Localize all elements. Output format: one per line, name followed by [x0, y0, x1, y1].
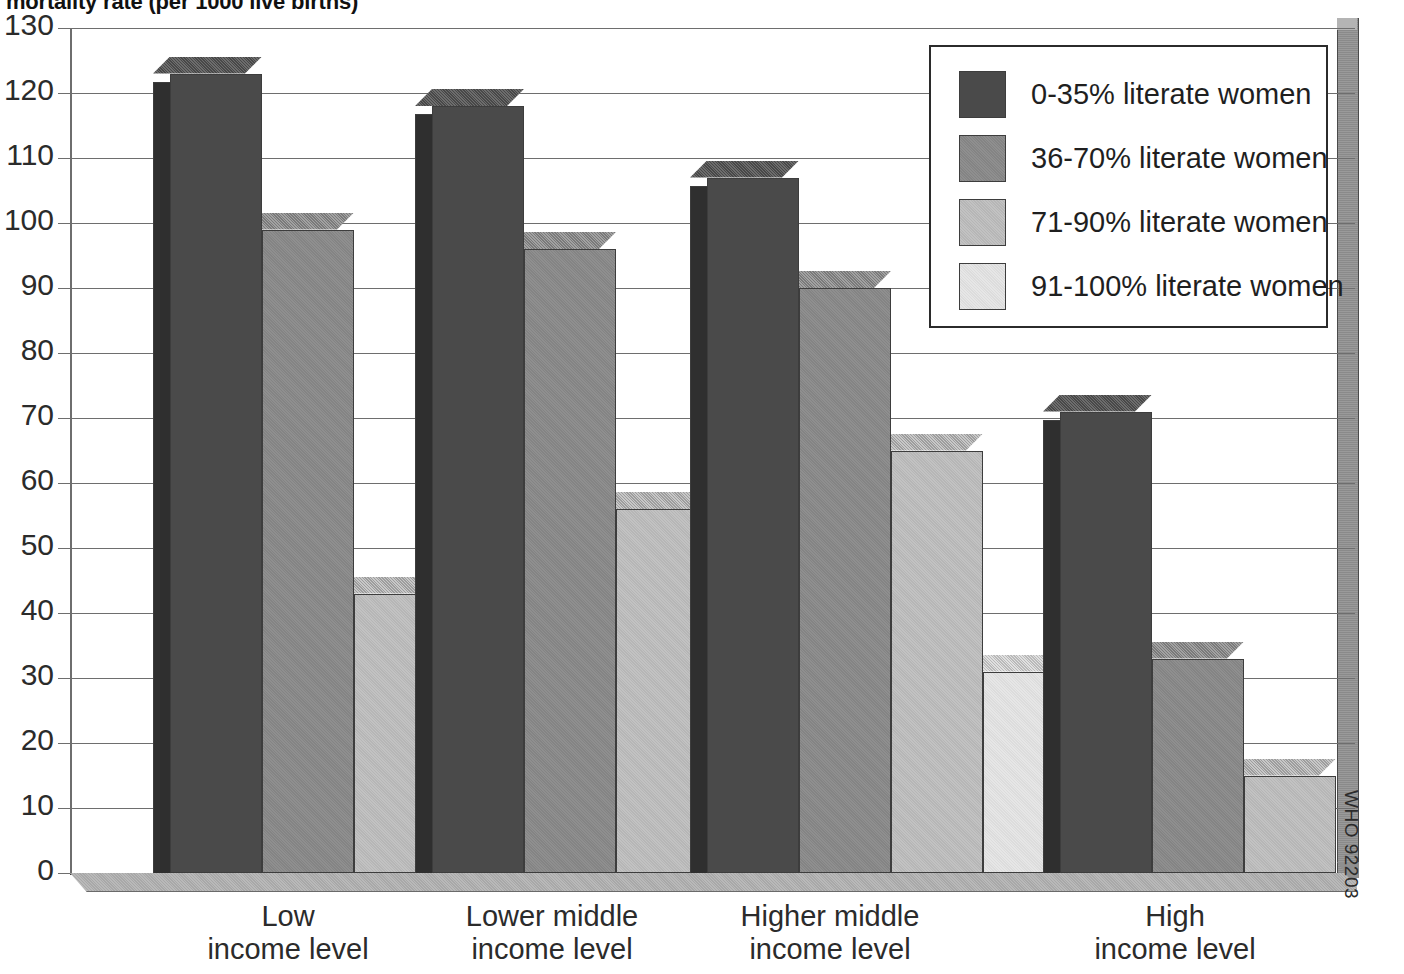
x-axis-label-line: income level	[402, 933, 702, 966]
legend-item-label: 36-70% literate women	[1031, 142, 1328, 175]
x-axis-label-line: High	[1025, 900, 1325, 933]
x-axis-label-line: Higher middle	[680, 900, 980, 933]
bar-top-face	[1043, 395, 1152, 412]
legend-item-3[interactable]: 91-100% literate women	[959, 257, 1344, 315]
legend-swatch-icon	[959, 263, 1006, 310]
y-axis-label-80: 80	[0, 335, 54, 365]
legend-item-0[interactable]: 0-35% literate women	[959, 65, 1311, 123]
bar-front-face	[524, 249, 616, 873]
bar	[707, 178, 799, 874]
bar-front-face	[799, 288, 891, 873]
x-axis-label-line: income level	[138, 933, 438, 966]
bar	[524, 249, 616, 873]
bar	[799, 288, 891, 873]
bar-front-face	[891, 451, 983, 874]
bar-top-face	[153, 57, 262, 74]
x-axis-label-line: Lower middle	[402, 900, 702, 933]
bar-side-face	[153, 82, 170, 874]
gridline-130	[70, 28, 1355, 29]
legend-item-label: 0-35% literate women	[1031, 78, 1311, 111]
bar-side-face	[690, 186, 707, 874]
y-axis-label-50: 50	[0, 530, 54, 560]
y-axis-label-0: 0	[0, 855, 54, 885]
x-axis-label-line: income level	[680, 933, 980, 966]
y-axis-label-90: 90	[0, 270, 54, 300]
y-axis-label-60: 60	[0, 465, 54, 495]
x-axis-label-line: Low	[138, 900, 438, 933]
bar-side-face	[1043, 420, 1060, 874]
bar	[891, 451, 983, 874]
x-axis-label-2: Higher middleincome level	[680, 900, 980, 967]
legend-item-label: 71-90% literate women	[1031, 206, 1328, 239]
bar	[432, 106, 524, 873]
legend-item-label: 91-100% literate women	[1031, 270, 1344, 303]
x-axis-label-line: income level	[1025, 933, 1325, 966]
y-axis-label-110: 110	[0, 140, 54, 170]
x-axis-label-0: Lowincome level	[138, 900, 438, 967]
legend-item-1[interactable]: 36-70% literate women	[959, 129, 1328, 187]
bar-top-face	[690, 161, 799, 178]
chart-floor	[70, 873, 1357, 892]
x-axis-label-1: Lower middleincome level	[402, 900, 702, 967]
bar-front-face	[432, 106, 524, 873]
bar-top-face	[415, 89, 524, 106]
x-axis-label-3: Highincome level	[1025, 900, 1325, 967]
bar	[1244, 776, 1336, 874]
bar-front-face	[1060, 412, 1152, 874]
legend-swatch-icon	[959, 71, 1006, 118]
chart-root: mortality rate (per 1000 live births) 01…	[0, 0, 1404, 974]
y-axis-label-120: 120	[0, 75, 54, 105]
bar-front-face	[170, 74, 262, 874]
who-credit: WHO 92203	[1340, 790, 1362, 899]
y-axis-label-40: 40	[0, 595, 54, 625]
legend-swatch-icon	[959, 135, 1006, 182]
bar	[170, 74, 262, 874]
legend-swatch-icon	[959, 199, 1006, 246]
bar-front-face	[1152, 659, 1244, 874]
y-axis-label-10: 10	[0, 790, 54, 820]
bar-front-face	[707, 178, 799, 874]
y-axis-label-130: 130	[0, 10, 54, 40]
y-axis-line	[70, 28, 72, 874]
y-axis-label-20: 20	[0, 725, 54, 755]
bar-front-face	[1244, 776, 1336, 874]
bar-side-face	[415, 114, 432, 873]
bar	[1060, 412, 1152, 874]
legend-item-2[interactable]: 71-90% literate women	[959, 193, 1328, 251]
y-axis-label-70: 70	[0, 400, 54, 430]
y-axis-label-100: 100	[0, 205, 54, 235]
chart-right-wall	[1337, 18, 1359, 874]
bar	[262, 230, 354, 874]
y-axis-label-30: 30	[0, 660, 54, 690]
bar-front-face	[262, 230, 354, 874]
bar	[1152, 659, 1244, 874]
chart-legend: 0-35% literate women36-70% literate wome…	[929, 45, 1328, 328]
